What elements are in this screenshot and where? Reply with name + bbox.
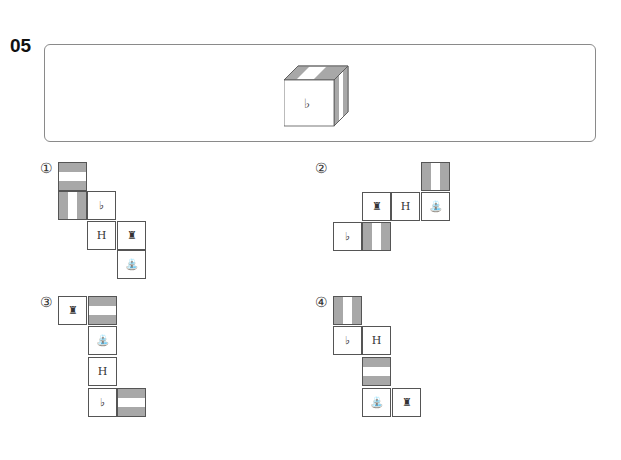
net-face-rook-icon: ♜ xyxy=(362,192,391,221)
fountain-icon: ⛲ xyxy=(96,334,110,347)
option-label-4[interactable]: ④ xyxy=(315,294,328,310)
letter-h: H xyxy=(372,334,382,347)
flat-icon: ♭ xyxy=(345,334,350,347)
net-face-letter-h: H xyxy=(87,221,116,250)
net-face-vstripe xyxy=(333,296,362,325)
net-face-fountain-icon: ⛲ xyxy=(421,192,450,221)
option-label-1[interactable]: ① xyxy=(40,160,53,176)
net-face-hstripe xyxy=(88,296,117,325)
net-face-letter-h: H xyxy=(391,192,420,221)
net-face-hstripe xyxy=(362,357,391,386)
net-face-flat-icon: ♭ xyxy=(333,326,362,355)
net-face-flat-icon: ♭ xyxy=(333,222,362,251)
net-face-hstripe xyxy=(117,388,146,417)
option-label-3[interactable]: ③ xyxy=(40,294,53,310)
net-face-fountain-icon: ⛲ xyxy=(117,250,146,279)
rook-icon: ♜ xyxy=(68,304,78,317)
flat-icon: ♭ xyxy=(345,230,350,243)
net-face-vstripe xyxy=(421,162,450,191)
fountain-icon: ⛲ xyxy=(429,200,443,213)
net-face-rook-icon: ♜ xyxy=(117,221,146,250)
net-face-letter-h: H xyxy=(362,326,391,355)
net-face-flat-icon: ♭ xyxy=(88,388,117,417)
letter-h: H xyxy=(98,365,108,378)
rook-icon: ♜ xyxy=(372,200,382,213)
net-face-letter-h: H xyxy=(88,357,117,386)
flat-icon: ♭ xyxy=(100,396,105,409)
question-number: 05 xyxy=(10,35,31,57)
net-face-flat-icon: ♭ xyxy=(87,191,116,220)
net-face-fountain-icon: ⛲ xyxy=(88,326,117,355)
net-face-vstripe xyxy=(58,191,87,220)
net-face-vstripe xyxy=(362,222,391,251)
letter-h: H xyxy=(401,200,411,213)
net-face-rook-icon: ♜ xyxy=(58,296,87,325)
net-face-rook-icon: ♜ xyxy=(392,388,421,417)
net-face-hstripe xyxy=(58,162,87,191)
reference-cube xyxy=(284,62,352,130)
net-face-fountain-icon: ⛲ xyxy=(362,388,391,417)
option-label-2[interactable]: ② xyxy=(315,160,328,176)
rook-icon: ♜ xyxy=(402,396,412,409)
cube-front-symbol: ♭ xyxy=(304,96,310,111)
flat-icon: ♭ xyxy=(99,199,104,212)
rook-icon: ♜ xyxy=(127,229,137,242)
letter-h: H xyxy=(97,229,107,242)
fountain-icon: ⛲ xyxy=(125,258,139,271)
fountain-icon: ⛲ xyxy=(370,396,384,409)
